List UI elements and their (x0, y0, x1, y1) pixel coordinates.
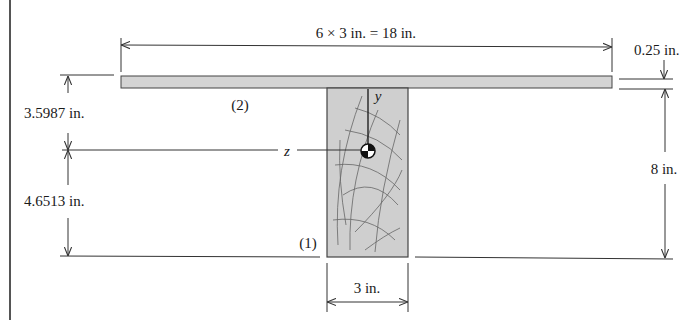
y-axis-label: y (373, 88, 382, 104)
bottom-reference-line-right (415, 257, 673, 259)
web-width-label: 3 in. (354, 280, 381, 296)
lower-distance-label: 4.6513 in. (24, 193, 84, 209)
z-axis-label: z (283, 143, 290, 159)
upper-distance-label: 3.5987 in. (24, 105, 84, 121)
plate-thickness-label: 0.25 in. (634, 42, 679, 58)
bottom-reference-line-left (60, 256, 320, 257)
plate-id-label: (2) (231, 97, 249, 114)
web-id-label: (1) (299, 235, 317, 252)
centroid-icon (361, 144, 375, 158)
steel-plate (121, 76, 612, 88)
top-width-dimension (121, 38, 612, 72)
plate-thickness-dimension (619, 60, 673, 89)
web-height-label: 8 in. (651, 161, 678, 177)
t-beam-diagram: 6 × 3 in. = 18 in. (2) z y (1) (0, 0, 700, 325)
top-width-label: 6 × 3 in. = 18 in. (316, 25, 416, 41)
